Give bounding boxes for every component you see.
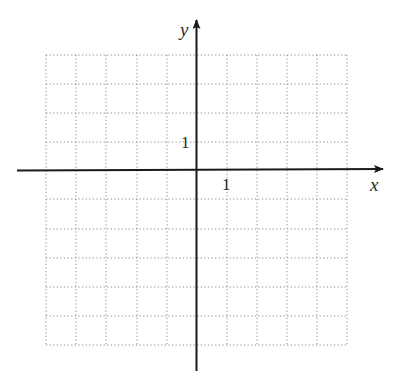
coordinate-plane: y x 1 1 <box>0 0 393 371</box>
x-tick-label-1: 1 <box>222 175 231 194</box>
x-axis <box>17 169 383 171</box>
y-tick-label-1: 1 <box>181 133 190 152</box>
y-axis-label: y <box>178 19 189 40</box>
x-axis-label: x <box>369 174 379 195</box>
